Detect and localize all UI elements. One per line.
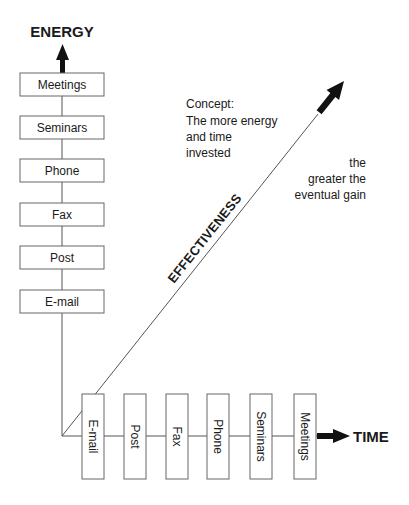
vertical-box-meetings: Meetings: [20, 73, 104, 96]
svg-text:Post: Post: [50, 251, 75, 265]
horizontal-box-post: Post: [124, 394, 146, 479]
conclusion-line: greater the: [308, 172, 366, 186]
concept-line: invested: [186, 146, 231, 160]
concept-line: and time: [186, 130, 232, 144]
vertical-box-post: Post: [20, 246, 104, 269]
horizontal-box-phone: Phone: [207, 394, 229, 479]
svg-text:Meetings: Meetings: [38, 78, 87, 92]
svg-text:Phone: Phone: [211, 419, 225, 454]
vertical-box-phone: Phone: [20, 159, 104, 182]
svg-text:Phone: Phone: [45, 164, 80, 178]
effectiveness-arrow-icon: [313, 76, 350, 117]
svg-text:Seminars: Seminars: [254, 411, 268, 462]
conclusion-note: the greater the eventual gain: [295, 156, 367, 202]
vertical-box-fax: Fax: [20, 203, 104, 226]
svg-text:Fax: Fax: [170, 426, 184, 446]
svg-text:E-mail: E-mail: [45, 295, 79, 309]
effectiveness-label: EFFECTIVENESS: [165, 191, 245, 286]
svg-text:Seminars: Seminars: [37, 121, 88, 135]
horizontal-box-email: E-mail: [82, 394, 104, 479]
energy-arrow-icon: [56, 44, 69, 73]
conclusion-line: eventual gain: [295, 188, 366, 202]
time-axis-label: TIME: [353, 428, 389, 445]
concept-line: The more energy: [186, 114, 277, 128]
vertical-box-seminars: Seminars: [20, 116, 104, 139]
svg-text:Fax: Fax: [52, 208, 72, 222]
svg-text:Meetings: Meetings: [298, 412, 312, 461]
concept-heading: Concept:: [186, 97, 234, 111]
time-arrow-icon: [317, 429, 350, 443]
horizontal-box-fax: Fax: [166, 394, 188, 479]
energy-time-effectiveness-diagram: ENERGY TIME EFFECTIVENESS Meetings Semin…: [0, 0, 409, 505]
conclusion-line: the: [349, 156, 366, 170]
energy-axis-label: ENERGY: [30, 23, 93, 40]
svg-text:Post: Post: [128, 424, 142, 449]
svg-text:E-mail: E-mail: [86, 419, 100, 453]
concept-note: Concept: The more energy and time invest…: [186, 97, 277, 160]
vertical-box-email: E-mail: [20, 290, 104, 313]
horizontal-box-seminars: Seminars: [250, 394, 272, 479]
horizontal-box-meetings: Meetings: [294, 394, 316, 479]
